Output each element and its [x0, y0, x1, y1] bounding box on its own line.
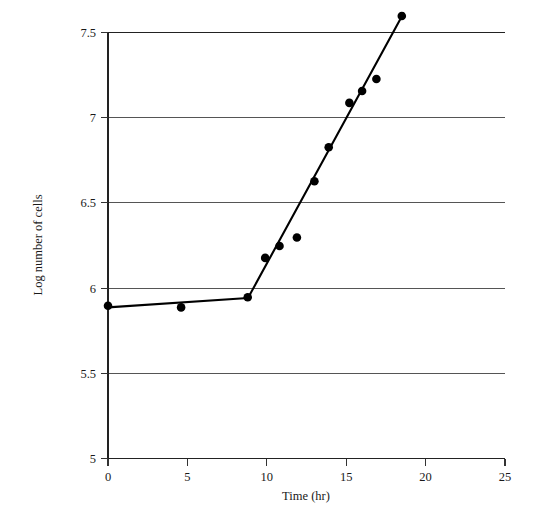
log-phase-fit-line	[248, 13, 403, 298]
gridlines	[108, 33, 505, 374]
y-tick-label-6.5: 6.5	[80, 196, 96, 210]
data-point	[324, 143, 333, 152]
x-axis-title: Time (hr)	[282, 489, 330, 503]
y-tick-label-7.5: 7.5	[80, 26, 96, 40]
data-point	[261, 254, 270, 263]
y-tick-label-6: 6	[90, 282, 96, 296]
x-tick-label-25: 25	[499, 470, 512, 484]
y-tick-label-7: 7	[90, 111, 96, 125]
y-tick-label-5: 5	[90, 452, 96, 466]
axis-frame	[108, 33, 505, 459]
data-point	[243, 293, 252, 302]
data-points	[104, 12, 406, 312]
x-tick-labels: 0 5 10 15 20 25	[105, 470, 511, 484]
data-point	[293, 233, 302, 242]
y-axis-title: Log number of cells	[31, 194, 45, 295]
data-point	[372, 75, 381, 84]
data-point	[398, 12, 407, 21]
x-tick-label-10: 10	[261, 470, 274, 484]
data-point	[275, 242, 284, 251]
y-tick-labels: 7.5 7 6.5 6 5.5 5	[80, 26, 96, 466]
x-tick-label-5: 5	[184, 470, 190, 484]
x-tick-label-0: 0	[105, 470, 111, 484]
data-point	[177, 303, 186, 312]
chart-canvas: 7.5 7 6.5 6 5.5 5 0 5 10 15 20 25 Time (…	[0, 0, 536, 514]
x-tick-label-20: 20	[419, 470, 432, 484]
growth-curve-figure: 7.5 7 6.5 6 5.5 5 0 5 10 15 20 25 Time (…	[0, 0, 536, 514]
data-point	[310, 177, 319, 186]
data-point	[358, 87, 367, 96]
data-point	[104, 301, 113, 310]
x-axis-ticks	[108, 459, 505, 466]
x-tick-label-15: 15	[340, 470, 353, 484]
y-tick-label-5.5: 5.5	[80, 367, 96, 381]
data-point	[345, 99, 354, 108]
y-axis-ticks	[101, 33, 108, 459]
fit-lines	[108, 13, 403, 307]
